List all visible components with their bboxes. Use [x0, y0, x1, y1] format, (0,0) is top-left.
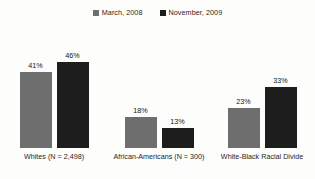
legend-item-march-2008: March, 2008	[93, 9, 143, 17]
legend-label: March, 2008	[102, 9, 143, 17]
bar-rect	[162, 128, 194, 148]
bar-rect	[125, 117, 157, 148]
square-swatch-icon	[93, 10, 99, 16]
square-swatch-icon	[160, 10, 166, 16]
bar-rect	[20, 72, 52, 148]
bar-rect	[265, 87, 297, 148]
bar-value-label: 23%	[236, 97, 250, 106]
plot-area: 41% 46% 18% 13%	[0, 40, 315, 148]
bar-value-label: 33%	[273, 76, 287, 85]
bar-african-americans-march-2008: 18%	[125, 40, 157, 148]
bar-racial-divide-november-2009: 33%	[265, 40, 297, 148]
bar-value-label: 41%	[28, 61, 42, 70]
bar-value-label: 46%	[65, 51, 79, 60]
bar-rect	[57, 62, 89, 148]
bar-african-americans-november-2009: 13%	[162, 40, 194, 148]
bar-group-white-black-racial-divide: 23% 33%	[216, 40, 308, 148]
bar-group-african-americans: 18% 13%	[113, 40, 205, 148]
bar-rect	[228, 108, 260, 148]
category-label-whites: Whites (N = 2,498)	[8, 152, 100, 162]
category-label-white-black-racial-divide: White-Black Racial Divide	[213, 152, 311, 162]
bar-whites-march-2008: 41%	[20, 40, 52, 148]
legend-label: November, 2009	[169, 9, 223, 17]
bar-group-whites: 41% 46%	[8, 40, 100, 148]
bar-chart: March, 2008 November, 2009 41% 46%	[0, 0, 315, 179]
bar-whites-november-2009: 46%	[57, 40, 89, 148]
bar-value-label: 13%	[170, 117, 184, 126]
bar-value-label: 18%	[133, 106, 147, 115]
category-axis-labels: Whites (N = 2,498) African-Americans (N …	[0, 152, 315, 166]
chart-legend: March, 2008 November, 2009	[0, 9, 315, 17]
bar-racial-divide-march-2008: 23%	[228, 40, 260, 148]
legend-item-november-2009: November, 2009	[160, 9, 223, 17]
category-label-african-americans: African-Americans (N = 300)	[105, 152, 213, 162]
